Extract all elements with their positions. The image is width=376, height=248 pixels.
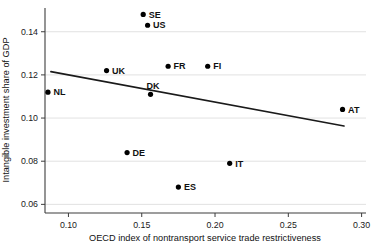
point-label-dk: DK (147, 81, 160, 91)
data-point-se (141, 12, 146, 17)
y-tick-label: 0.06 (21, 199, 38, 209)
y-tick-label: 0.08 (21, 156, 38, 166)
x-axis-title: OECD index of nontransport service trade… (89, 233, 321, 243)
data-point-dk (148, 92, 153, 97)
y-tick-label: 0.10 (21, 113, 38, 123)
scatter-plot: 0.060.080.100.120.140.100.150.200.250.30… (0, 0, 376, 248)
y-tick-label: 0.14 (21, 27, 38, 37)
point-label-fi: FI (213, 61, 221, 71)
data-point-it (227, 161, 232, 166)
data-point-nl (45, 90, 50, 95)
y-axis-title: Intangible investment share of GDP (1, 37, 11, 182)
x-tick-label: 0.30 (353, 220, 370, 230)
scatter-chart-figure: 0.060.080.100.120.140.100.150.200.250.30… (0, 0, 376, 248)
plot-content: 0.060.080.100.120.140.100.150.200.250.30… (21, 8, 370, 230)
point-label-de: DE (133, 148, 146, 158)
data-point-at (340, 107, 345, 112)
y-tick-label: 0.12 (21, 70, 38, 80)
point-label-uk: UK (112, 66, 125, 76)
point-label-es: ES (184, 182, 196, 192)
x-tick-label: 0.20 (206, 220, 223, 230)
point-label-se: SE (149, 10, 161, 20)
data-point-de (124, 150, 129, 155)
point-label-at: AT (348, 105, 360, 115)
point-label-nl: NL (53, 87, 65, 97)
data-point-fr (166, 64, 171, 69)
point-label-it: IT (235, 159, 244, 169)
data-point-es (176, 185, 181, 190)
x-tick-label: 0.25 (280, 220, 297, 230)
data-point-us (145, 23, 150, 28)
point-label-fr: FR (174, 61, 186, 71)
data-point-uk (104, 68, 109, 73)
data-point-fi (205, 64, 210, 69)
x-tick-label: 0.15 (133, 220, 150, 230)
point-label-us: US (153, 20, 166, 30)
x-tick-label: 0.10 (60, 220, 77, 230)
